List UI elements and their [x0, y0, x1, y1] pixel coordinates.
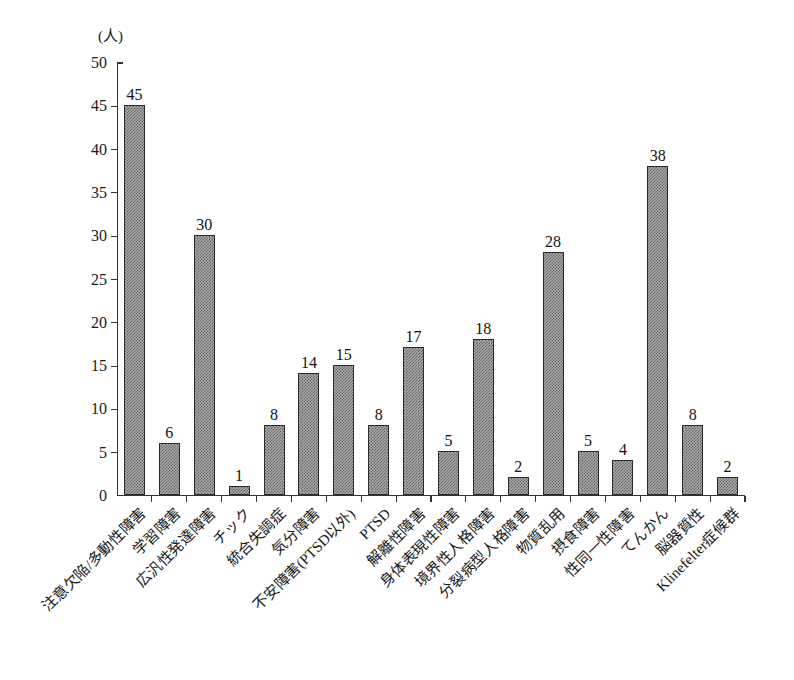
x-axis-tick [675, 496, 676, 502]
bar: 5 [438, 451, 459, 494]
y-axis-tick-label: 0 [99, 488, 107, 504]
x-axis-category-labels: 注意欠陥/多動性障害学習障害広汎性発達障害チック統合失調症気分障害不安障害(PT… [117, 506, 745, 676]
bar: 18 [473, 339, 494, 495]
bar: 45 [124, 105, 145, 495]
bar: 5 [578, 451, 599, 494]
bar-value-label: 38 [650, 148, 666, 164]
bar: 4 [612, 460, 633, 495]
bar: 30 [194, 235, 215, 495]
bar: 15 [333, 365, 354, 495]
bar-value-label: 45 [126, 87, 142, 103]
bar: 1 [229, 486, 250, 495]
bar-value-label: 28 [545, 234, 561, 250]
x-axis-tick [291, 496, 292, 502]
bar: 6 [159, 443, 180, 495]
x-axis-tick [570, 496, 571, 502]
x-axis-tick [605, 496, 606, 502]
y-axis-tick [111, 236, 117, 237]
x-axis-tick [396, 496, 397, 502]
x-axis-tick [186, 496, 187, 502]
x-axis-tick [221, 496, 222, 502]
bar-value-label: 15 [336, 347, 352, 363]
bar-value-label: 14 [301, 355, 317, 371]
bar-value-label: 18 [475, 321, 491, 337]
y-axis-tick [111, 106, 117, 107]
bar-value-label: 30 [196, 217, 212, 233]
bar-value-label: 5 [444, 433, 452, 449]
y-axis-tick [111, 452, 117, 453]
x-axis-tick [744, 496, 745, 502]
y-axis-tick [111, 366, 117, 367]
bar: 28 [543, 252, 564, 494]
bar: 17 [403, 347, 424, 494]
bar: 2 [508, 477, 529, 494]
y-axis-tick [111, 322, 117, 323]
x-axis-tick [710, 496, 711, 502]
bar-value-label: 1 [235, 468, 243, 484]
x-axis-tick [640, 496, 641, 502]
bar: 8 [368, 425, 389, 494]
x-axis-category-label: 注意欠陥/多動性障害 [40, 506, 149, 615]
y-axis-tick-label: 45 [91, 98, 107, 114]
bar: 8 [682, 425, 703, 494]
y-axis-tick [111, 192, 117, 193]
y-axis-tick-label: 40 [91, 142, 107, 158]
y-axis-tick [111, 149, 117, 150]
bar-value-label: 8 [689, 407, 697, 423]
bar: 2 [717, 477, 738, 494]
y-axis-tick-label: 30 [91, 228, 107, 244]
y-axis-tick [117, 62, 123, 63]
bar: 14 [298, 373, 319, 494]
y-axis-tick [111, 409, 117, 410]
y-axis-tick-label: 10 [91, 401, 107, 417]
bar-value-label: 6 [165, 425, 173, 441]
bar-value-label: 2 [514, 459, 522, 475]
x-axis-tick [500, 496, 501, 502]
bar-value-label: 8 [375, 407, 383, 423]
x-axis-tick [465, 496, 466, 502]
x-axis-tick [151, 496, 152, 502]
bar: 38 [647, 166, 668, 495]
plot-area: 05101520253035404550 4563018141581751822… [117, 63, 745, 496]
x-axis-tick [430, 496, 431, 502]
bar-value-label: 5 [584, 433, 592, 449]
bar: 8 [264, 425, 285, 494]
bar-value-label: 4 [619, 442, 627, 458]
y-axis-tick-label: 5 [99, 445, 107, 461]
y-axis-line [117, 63, 118, 496]
y-axis-unit-label: (人) [98, 24, 123, 45]
y-axis-tick-label: 35 [91, 185, 107, 201]
x-axis-tick [535, 496, 536, 502]
y-axis-tick-label: 25 [91, 272, 107, 288]
x-axis-tick [256, 496, 257, 502]
y-axis-tick [111, 279, 117, 280]
bar-chart: (人) 05101520253035404550 456301814158175… [0, 0, 794, 680]
y-axis-tick-label: 20 [91, 315, 107, 331]
x-axis-tick [361, 496, 362, 502]
y-axis-tick-label: 15 [91, 358, 107, 374]
bar-value-label: 8 [270, 407, 278, 423]
y-axis-tick-label: 50 [91, 55, 107, 71]
x-axis-tick [326, 496, 327, 502]
bar-value-label: 17 [406, 329, 422, 345]
bar-value-label: 2 [724, 459, 732, 475]
